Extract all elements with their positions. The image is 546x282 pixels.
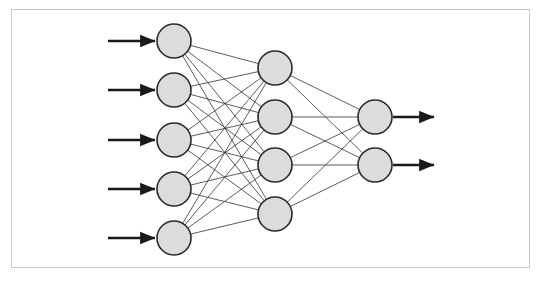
input-node-2 bbox=[157, 73, 191, 107]
edge-i1-h3 bbox=[185, 54, 265, 152]
edge-h1-o2 bbox=[287, 80, 363, 153]
output-node-1 bbox=[358, 100, 392, 134]
figure-page bbox=[0, 0, 546, 282]
figure-caption bbox=[12, 273, 532, 282]
input-node-3 bbox=[157, 123, 191, 157]
hidden-node-2 bbox=[258, 100, 292, 134]
input-arrows bbox=[108, 41, 155, 238]
neural-network-diagram bbox=[0, 0, 546, 282]
edge-i5-h4 bbox=[191, 218, 259, 234]
input-node-1 bbox=[157, 24, 191, 58]
edge-i2-h4 bbox=[185, 103, 265, 201]
hidden-node-4 bbox=[258, 197, 292, 231]
hidden-node-3 bbox=[258, 148, 292, 182]
edges-hidden-to-output bbox=[287, 75, 363, 206]
edges-input-to-hidden bbox=[183, 45, 267, 234]
edge-i4-h1 bbox=[185, 81, 264, 176]
output-arrows bbox=[393, 117, 434, 165]
output-node-2 bbox=[358, 148, 392, 182]
input-node-4 bbox=[157, 172, 191, 206]
edge-h4-o1 bbox=[287, 129, 363, 202]
input-node-5 bbox=[157, 221, 191, 255]
hidden-node-1 bbox=[258, 51, 292, 85]
edge-i5-h2 bbox=[185, 130, 264, 225]
network-nodes bbox=[157, 24, 392, 255]
